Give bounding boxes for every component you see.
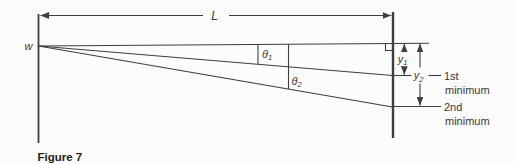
diagram-canvas: L w θ1 θ2 y1 y2 1st minimum 2nd minimum … — [0, 0, 517, 164]
theta2-subscript: 2 — [296, 80, 302, 89]
figure-7-diffraction-diagram: L w θ1 θ2 y1 y2 1st minimum 2nd minimum … — [0, 0, 517, 164]
second-minimum-line2: minimum — [445, 115, 490, 127]
theta1-subscript: 1 — [268, 53, 272, 62]
first-minimum-ray — [39, 46, 393, 76]
theta1-label: θ1 — [262, 48, 272, 63]
first-minimum-line2: minimum — [445, 84, 490, 96]
first-minimum-line1: 1st — [444, 70, 459, 82]
theta2-label: θ2 — [291, 75, 302, 90]
length-label: L — [211, 9, 218, 23]
y2-label: y2 — [413, 69, 425, 84]
slit-width-label: w — [25, 40, 34, 52]
central-axis-ray — [39, 43, 430, 46]
second-minimum-line1: 2nd — [444, 101, 462, 113]
y2-subscript: 2 — [418, 75, 424, 84]
first-minimum-label: 1st minimum — [444, 70, 490, 96]
right-angle-mark — [386, 44, 393, 51]
second-minimum-ray — [39, 46, 393, 107]
y1-subscript: 1 — [403, 58, 407, 67]
figure-caption: Figure 7 — [38, 151, 83, 163]
y1-label: y1 — [397, 53, 408, 68]
second-minimum-label: 2nd minimum — [444, 101, 490, 127]
